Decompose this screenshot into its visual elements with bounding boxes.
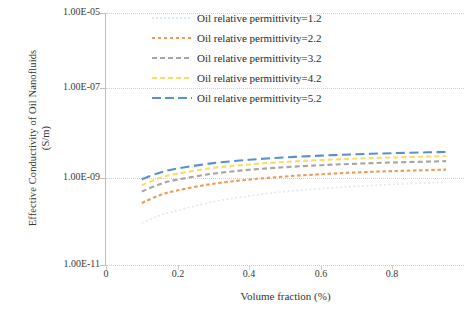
- series-line: [142, 170, 446, 203]
- legend-item-label: Oil relative permittivity=3.2: [197, 52, 321, 64]
- legend-item[interactable]: Oil relative permittivity=3.2: [152, 48, 452, 68]
- legend-item-label: Oil relative permittivity=5.2: [197, 92, 321, 104]
- legend-item[interactable]: Oil relative permittivity=4.2: [152, 68, 452, 88]
- legend-item-label: Oil relative permittivity=4.2: [197, 72, 321, 84]
- legend-item[interactable]: Oil relative permittivity=5.2: [152, 88, 452, 108]
- series-line: [142, 156, 446, 185]
- legend-item-label: Oil relative permittivity=2.2: [197, 32, 321, 44]
- legend-swatch-icon: [152, 13, 192, 23]
- series-line: [142, 182, 446, 223]
- legend-swatch-icon: [152, 93, 192, 103]
- chart-figure: Effective Conductivity of Oil Nanofluids…: [0, 0, 465, 309]
- legend-swatch-icon: [152, 73, 192, 83]
- legend-item-label: Oil relative permittivity=1.2: [197, 12, 321, 24]
- legend-item[interactable]: Oil relative permittivity=2.2: [152, 28, 452, 48]
- legend-swatch-icon: [152, 53, 192, 63]
- legend-swatch-icon: [152, 33, 192, 43]
- legend-item[interactable]: Oil relative permittivity=1.2: [152, 8, 452, 28]
- chart-legend: Oil relative permittivity=1.2Oil relativ…: [152, 8, 452, 108]
